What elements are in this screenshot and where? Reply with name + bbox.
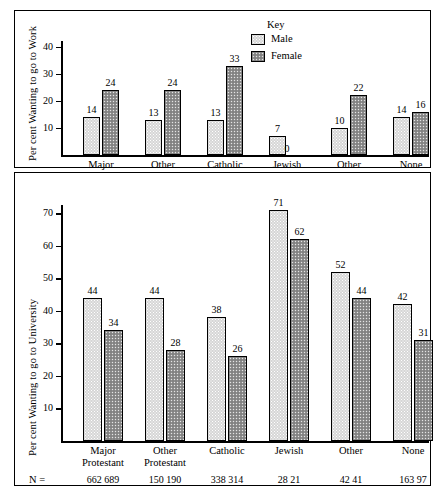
sample-size-row-label: N =: [29, 474, 45, 485]
y-axis-tick: [56, 278, 61, 279]
y-axis-tick: [56, 343, 61, 344]
category-label: None: [368, 159, 445, 171]
bar-male: [207, 317, 226, 441]
y-axis-tick: [56, 74, 61, 75]
plot-area-work: 102030401424MajorProtestant1324OtherProt…: [61, 33, 431, 155]
y-axis-line: [61, 205, 63, 441]
bar-value-label: 31: [409, 328, 439, 338]
x-axis-line: [61, 155, 429, 157]
y-axis-tick: [56, 376, 61, 377]
bar-male: [207, 120, 224, 155]
y-axis-tick: [56, 213, 61, 214]
bar-male: [83, 117, 100, 155]
bar-value-label: 22: [344, 83, 374, 93]
category-label-line1: None: [368, 159, 445, 171]
chart-panel-work: Per cent Wanting to go to Work 102030401…: [14, 10, 431, 168]
y-axis-tick-label: 30: [31, 69, 53, 79]
bar-value-label: 52: [326, 260, 356, 270]
y-axis-tick: [56, 128, 61, 129]
bar-value-label: 7: [263, 124, 293, 134]
bar-female: [102, 90, 119, 155]
y-axis-tick: [56, 246, 61, 247]
bar-value-label: 38: [202, 305, 232, 315]
y-axis-tick-label: 20: [31, 371, 53, 381]
plot-area-university: 102030405060704434MajorProtestant662 689…: [61, 197, 431, 441]
y-axis-tick: [56, 311, 61, 312]
bar-value-label: 44: [140, 286, 170, 296]
bar-male: [269, 210, 288, 441]
y-axis-tick-label: 30: [31, 338, 53, 348]
sample-size-pair: 163 97: [370, 474, 445, 485]
bar-value-label: 16: [406, 100, 436, 110]
bar-value-label: 62: [285, 227, 315, 237]
bar-value-label: 44: [78, 286, 108, 296]
bar-male: [393, 304, 412, 441]
bar-male: [145, 120, 162, 155]
figure-root: Per cent Wanting to go to Work 102030401…: [0, 0, 445, 496]
y-axis-tick-label: 20: [31, 96, 53, 106]
bar-female: [226, 66, 243, 155]
bar-female: [412, 112, 429, 155]
bar-male: [331, 272, 350, 441]
bar-value-label: 24: [158, 78, 188, 88]
y-axis-tick-label: 40: [31, 306, 53, 316]
bar-female: [228, 356, 247, 441]
bar-value-label: 33: [220, 54, 250, 64]
bar-value-label-zero: 0: [285, 144, 315, 154]
y-axis-tick-label: 70: [31, 208, 53, 218]
bar-female: [104, 330, 123, 441]
bar-value-label: 44: [347, 286, 377, 296]
bar-value-label: 28: [161, 338, 191, 348]
bar-female: [350, 95, 367, 155]
scan-artifact-caption-sliver: [95, 0, 345, 5]
bar-female: [164, 90, 181, 155]
y-axis-tick-label: 50: [31, 273, 53, 283]
legend-label-female: Female: [271, 50, 302, 61]
bar-male: [145, 298, 164, 441]
y-axis-tick-label: 60: [31, 241, 53, 251]
bar-female: [352, 298, 371, 441]
bar-female: [290, 239, 309, 441]
y-axis-tick: [56, 101, 61, 102]
chart-panel-university: Per cent Wanting to go to University 102…: [14, 172, 431, 486]
y-axis-tick-label: 10: [31, 123, 53, 133]
bar-male: [269, 136, 286, 155]
bar-value-label: 42: [388, 292, 418, 302]
y-axis-line: [61, 41, 63, 155]
legend-swatch-male: [251, 34, 265, 45]
bar-value-label: 71: [264, 198, 294, 208]
legend-label-male: Male: [271, 33, 293, 44]
legend-swatch-female: [251, 51, 265, 62]
category-label: None: [370, 445, 445, 457]
bar-value-label: 24: [96, 78, 126, 88]
bar-value-label: 34: [99, 318, 129, 328]
x-axis-line: [61, 441, 429, 443]
y-axis-tick: [56, 47, 61, 48]
bar-male: [331, 128, 348, 155]
bar-female: [166, 350, 185, 441]
category-label-line1: None: [370, 445, 445, 457]
legend-title: Key: [267, 19, 285, 30]
bar-female: [414, 340, 433, 441]
bar-value-label: 26: [223, 344, 253, 354]
bar-male: [393, 117, 410, 155]
y-axis-tick-label: 40: [31, 42, 53, 52]
category-label-line2: Protestant: [122, 457, 208, 469]
y-axis-tick: [56, 408, 61, 409]
y-axis-tick-label: 10: [31, 403, 53, 413]
